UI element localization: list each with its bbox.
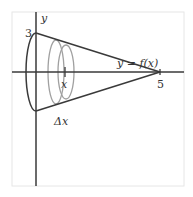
diagram-canvas: y 3 y = f(x) 5 x Δx — [0, 0, 193, 197]
y-axis-label: y — [40, 12, 48, 25]
frame — [12, 12, 184, 186]
delta-x-label: Δx — [53, 115, 69, 128]
x-marker-label: x — [61, 78, 68, 91]
function-label: y = f(x) — [116, 57, 158, 70]
y-intercept-label: 3 — [25, 27, 32, 40]
curve-lower — [36, 72, 160, 111]
x-intercept-label: 5 — [157, 78, 164, 91]
